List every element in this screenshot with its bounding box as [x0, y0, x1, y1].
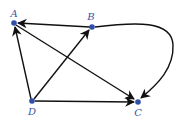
- node-d: [29, 98, 35, 104]
- edge-d-to-a: [15, 27, 31, 99]
- node-b-label: B: [86, 11, 94, 22]
- node-a: [11, 20, 17, 26]
- directed-graph: A B C D: [0, 0, 181, 123]
- node-a-label: A: [9, 8, 17, 19]
- node-c-label: C: [134, 107, 142, 118]
- edge-b-to-a: [18, 23, 90, 27]
- node-d-label: D: [27, 106, 36, 117]
- edge-b-to-c: [95, 24, 173, 98]
- node-c: [135, 99, 141, 105]
- edge-d-to-b: [34, 30, 89, 99]
- edge-d-to-c: [35, 101, 134, 102]
- node-b: [89, 24, 95, 30]
- edge-a-to-c: [16, 25, 134, 99]
